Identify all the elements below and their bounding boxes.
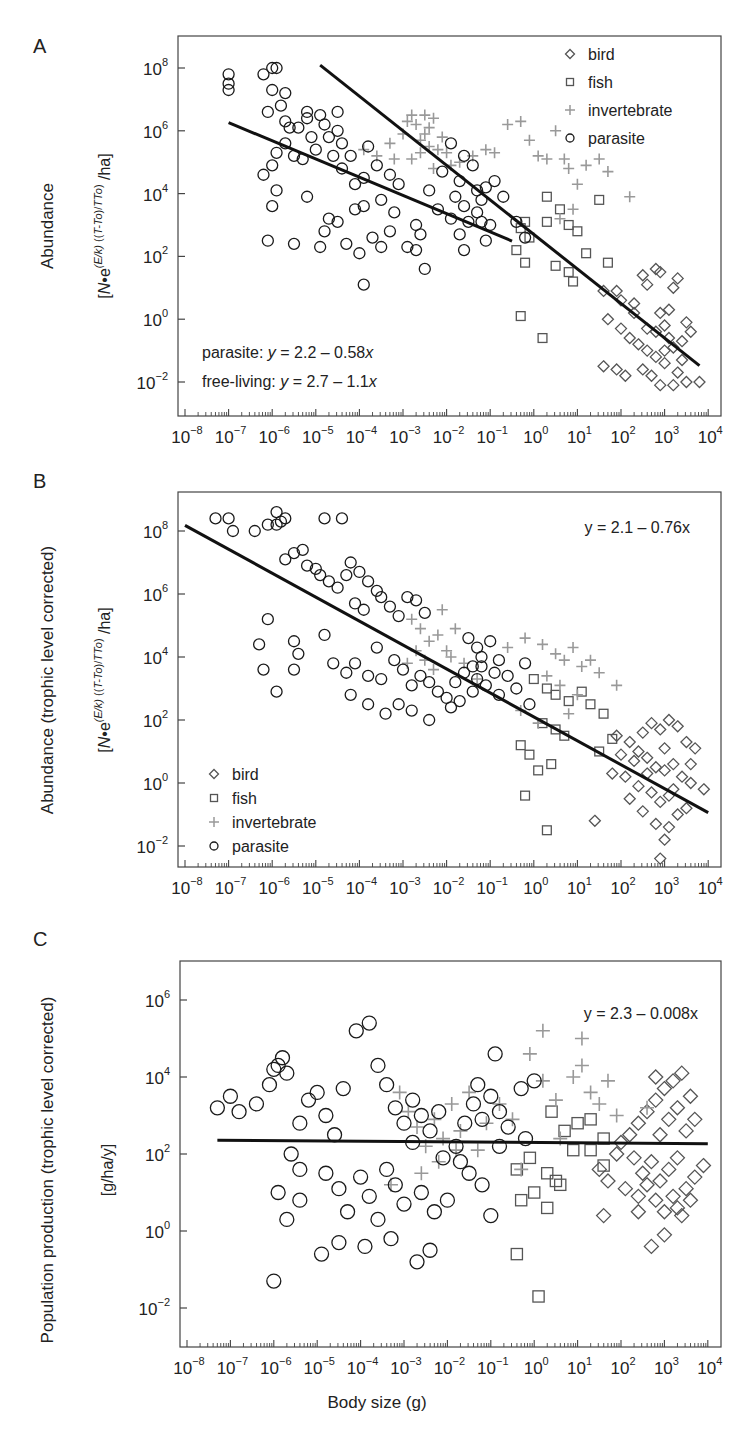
parasite-point: [380, 708, 391, 719]
parasite-point: [306, 132, 317, 143]
x-tick-label: 102: [610, 1355, 635, 1378]
parasite-point: [223, 84, 234, 95]
x-tick-label: 10−2: [433, 424, 464, 447]
fish-point: [564, 221, 573, 230]
x-tick-label: 10−4: [346, 424, 377, 447]
bird-point: [642, 752, 653, 763]
parasite-point: [376, 241, 387, 252]
invertebrate-point: [610, 1109, 624, 1123]
parasite-point: [489, 667, 500, 678]
parasite-point: [371, 160, 382, 171]
invertebrate-point: [523, 1047, 537, 1061]
parasite-point: [293, 1193, 307, 1207]
invertebrate-point: [624, 191, 635, 202]
bird-point: [672, 367, 683, 378]
annotation-fit-c: y = 2.3 – 0.008x: [584, 1005, 698, 1022]
parasite-point: [410, 1255, 424, 1269]
fish-point: [551, 690, 560, 699]
invertebrate-point: [581, 160, 592, 171]
parasite-point: [341, 1205, 355, 1219]
invertebrate-point: [575, 1058, 589, 1072]
invertebrate-point: [415, 623, 426, 634]
parasite-point: [437, 166, 448, 177]
fit-line-c: [217, 1140, 707, 1143]
bird-point: [690, 743, 701, 754]
y-tick-label: 102: [143, 708, 168, 731]
parasite-point: [423, 1124, 437, 1138]
invertebrate-point: [536, 1074, 550, 1088]
parasite-point: [319, 1166, 333, 1180]
parasite-point: [289, 636, 300, 647]
x-tick-label: 10−7: [217, 1355, 248, 1378]
parasite-point: [371, 642, 382, 653]
y-axis-label-c: Population production (trophic level cor…: [38, 997, 57, 1344]
invertebrate-point: [479, 1116, 493, 1130]
parasite-point: [349, 1024, 363, 1038]
bird-point: [642, 345, 653, 356]
bird-point: [646, 370, 657, 381]
x-tick-label: 10−1: [476, 424, 507, 447]
parasite-point: [424, 185, 435, 196]
parasite-point: [267, 1274, 281, 1288]
parasite-point: [332, 125, 343, 136]
parasite-point: [319, 1109, 333, 1123]
fish-point: [555, 1179, 566, 1190]
x-tick-label: 10−6: [258, 424, 289, 447]
invertebrate-point: [414, 1166, 428, 1180]
legend-circle-icon: [210, 842, 218, 850]
parasite-point: [267, 84, 278, 95]
fish-point: [529, 675, 538, 684]
invertebrate-point: [594, 667, 605, 678]
parasite-point: [454, 229, 465, 240]
bird-point: [649, 1193, 663, 1207]
bird-point: [644, 1155, 658, 1169]
bird-point: [597, 1209, 611, 1223]
bird-point: [672, 721, 683, 732]
bird-point: [698, 784, 709, 795]
bird-point: [655, 380, 666, 391]
y-axis-unit-b: [N•e(E/k) ((T-To)/TTo) /ha]: [92, 607, 113, 752]
parasite-point: [524, 699, 535, 710]
fish-point: [585, 1114, 596, 1125]
invertebrate-point: [611, 680, 622, 691]
bird-point: [688, 1170, 702, 1184]
bird-point: [681, 737, 692, 748]
parasite-point: [350, 658, 361, 669]
y-tick-label: 10−2: [137, 370, 168, 393]
bird-point: [659, 743, 670, 754]
invertebrate-point: [524, 135, 535, 146]
parasite-point: [393, 611, 404, 622]
parasite-point: [371, 1212, 385, 1226]
parasite-point: [466, 1097, 480, 1111]
fish-point: [516, 741, 525, 750]
parasite-point: [289, 238, 300, 249]
parasite-point: [520, 658, 531, 669]
parasite-point: [223, 513, 234, 524]
fish-point: [521, 258, 530, 267]
bird-point: [650, 351, 661, 362]
panel-letter-c: C: [33, 928, 47, 950]
bird-point: [670, 1151, 684, 1165]
x-tick-label: 104: [698, 424, 723, 447]
invertebrate-point: [541, 670, 552, 681]
bird-point: [672, 809, 683, 820]
invertebrate-point: [384, 138, 395, 149]
parasite-point: [389, 655, 400, 666]
parasite-point: [397, 1197, 411, 1211]
bird-point: [620, 370, 631, 381]
invertebrate-point: [592, 1097, 606, 1111]
data-points-c: [210, 1016, 710, 1302]
bird-point: [607, 768, 618, 779]
parasite-point: [336, 138, 347, 149]
y-tick-label: 104: [143, 182, 168, 205]
invertebrate-point: [502, 119, 513, 130]
fish-point: [598, 1160, 609, 1171]
parasite-point: [332, 106, 343, 117]
y-axis-unit-c: [g/ha/y]: [99, 1144, 116, 1196]
x-tick-label: 103: [654, 1355, 679, 1378]
parasite-point: [341, 570, 352, 581]
legend-label: fish: [588, 74, 613, 91]
x-tick-label: 10−8: [173, 1355, 204, 1378]
parasite-point: [467, 160, 478, 171]
bird-point: [598, 361, 609, 372]
